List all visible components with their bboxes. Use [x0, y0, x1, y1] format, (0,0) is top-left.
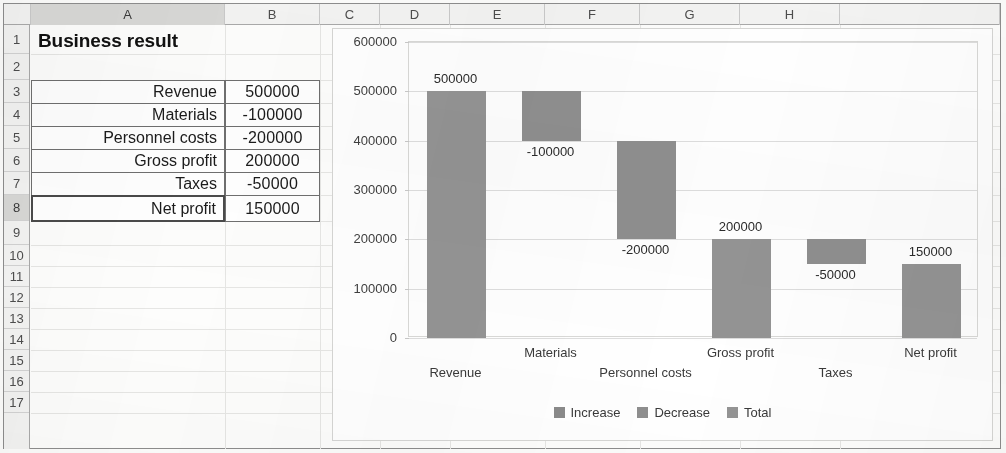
y-axis-tick-mark [405, 42, 409, 43]
select-all-corner[interactable] [4, 4, 31, 25]
chart-data-label: -50000 [815, 267, 855, 282]
row-header-5[interactable]: 5 [4, 126, 29, 149]
table-row-value-cell[interactable]: 500000 [225, 80, 320, 104]
chart-gridline [409, 141, 977, 142]
row-header-7[interactable]: 7 [4, 172, 29, 195]
table-row-label-cell[interactable]: Personnel costs [31, 126, 225, 150]
y-axis-tick-label: 0 [333, 330, 403, 345]
cell-a1-title[interactable]: Business result [38, 29, 178, 53]
table-row-label-cell[interactable]: Revenue [31, 80, 225, 104]
y-axis-tick-mark [405, 91, 409, 92]
x-axis-category-label: Personnel costs [599, 365, 692, 380]
row-header-12[interactable]: 12 [4, 287, 29, 308]
x-axis-category-label: Net profit [904, 345, 957, 360]
waterfall-chart-object[interactable]: 0100000200000300000400000500000600000500… [332, 28, 993, 441]
chart-bar[interactable] [902, 264, 961, 338]
column-header-a[interactable]: A [31, 4, 225, 25]
chart-data-label: -200000 [622, 242, 670, 257]
row-header-4[interactable]: 4 [4, 103, 29, 126]
y-axis-tick-label: 200000 [333, 231, 403, 246]
y-axis-tick-mark [405, 141, 409, 142]
chart-plot-area [408, 41, 978, 337]
row-header-16[interactable]: 16 [4, 371, 29, 392]
table-row-label-cell[interactable]: Gross profit [31, 149, 225, 173]
column-header-f[interactable]: F [545, 4, 640, 25]
table-row-value-cell[interactable]: 150000 [225, 195, 320, 222]
column-header-e[interactable]: E [450, 4, 545, 25]
row-header-14[interactable]: 14 [4, 329, 29, 350]
chart-bar[interactable] [807, 239, 866, 264]
column-header-g[interactable]: G [640, 4, 740, 25]
x-axis-category-label: Revenue [429, 365, 481, 380]
table-row-label-cell[interactable]: Net profit [31, 195, 225, 222]
row-header-6[interactable]: 6 [4, 149, 29, 172]
row-header-9[interactable]: 9 [4, 221, 29, 245]
legend-label: Increase [571, 405, 621, 420]
chart-legend: IncreaseDecreaseTotal [333, 405, 992, 420]
row-header-2[interactable]: 2 [4, 54, 29, 80]
row-header-8[interactable]: 8 [4, 195, 29, 221]
y-axis-tick-label: 300000 [333, 182, 403, 197]
row-header-11[interactable]: 11 [4, 266, 29, 287]
table-row-value-cell[interactable]: -100000 [225, 103, 320, 127]
chart-bar[interactable] [427, 91, 486, 338]
column-header-h[interactable]: H [740, 4, 840, 25]
x-axis-category-label: Taxes [819, 365, 853, 380]
chart-gridline [409, 338, 977, 339]
y-axis-tick-mark [405, 239, 409, 240]
chart-bar[interactable] [522, 91, 581, 140]
y-axis-tick-label: 600000 [333, 34, 403, 49]
y-axis-tick-mark [405, 289, 409, 290]
grid-column-line [320, 25, 321, 449]
row-header-bar: 1234567891011121314151617 [4, 25, 30, 449]
table-row-label-cell[interactable]: Taxes [31, 172, 225, 196]
chart-data-label: 150000 [909, 244, 952, 259]
legend-item[interactable]: Decrease [637, 405, 710, 420]
column-header-i[interactable] [840, 4, 1000, 25]
y-axis-tick-label: 400000 [333, 132, 403, 147]
row-header-13[interactable]: 13 [4, 308, 29, 329]
table-row-value-cell[interactable]: 200000 [225, 149, 320, 173]
table-row-label-cell[interactable]: Materials [31, 103, 225, 127]
column-header-c[interactable]: C [320, 4, 380, 25]
legend-swatch-icon [637, 407, 648, 418]
legend-item[interactable]: Increase [554, 405, 621, 420]
legend-swatch-icon [554, 407, 565, 418]
table-row-value-cell[interactable]: -200000 [225, 126, 320, 150]
legend-label: Decrease [654, 405, 710, 420]
row-header-3[interactable]: 3 [4, 80, 29, 103]
column-header-bar: ABCDEFGH [4, 4, 1000, 25]
row-header-17[interactable]: 17 [4, 392, 29, 413]
table-row-value-cell[interactable]: -50000 [225, 172, 320, 196]
column-header-d[interactable]: D [380, 4, 450, 25]
y-axis-tick-mark [405, 190, 409, 191]
chart-gridline [409, 239, 977, 240]
spreadsheet-application: ABCDEFGH 1234567891011121314151617 Busin… [0, 0, 1006, 453]
legend-label: Total [744, 405, 771, 420]
chart-gridline [409, 42, 977, 43]
row-header-10[interactable]: 10 [4, 245, 29, 266]
row-header-1[interactable]: 1 [4, 25, 29, 54]
chart-data-label: 200000 [719, 219, 762, 234]
chart-data-label: 500000 [434, 71, 477, 86]
x-axis-category-label: Gross profit [707, 345, 774, 360]
chart-bar[interactable] [617, 141, 676, 240]
column-header-b[interactable]: B [225, 4, 320, 25]
chart-bar[interactable] [712, 239, 771, 338]
y-axis-tick-label: 100000 [333, 280, 403, 295]
chart-data-label: -100000 [527, 144, 575, 159]
x-axis-category-label: Materials [524, 345, 577, 360]
chart-gridline [409, 190, 977, 191]
y-axis-tick-label: 500000 [333, 83, 403, 98]
chart-gridline [409, 289, 977, 290]
y-axis-tick-mark [405, 338, 409, 339]
legend-item[interactable]: Total [727, 405, 771, 420]
legend-swatch-icon [727, 407, 738, 418]
chart-gridline [409, 91, 977, 92]
row-header-15[interactable]: 15 [4, 350, 29, 371]
